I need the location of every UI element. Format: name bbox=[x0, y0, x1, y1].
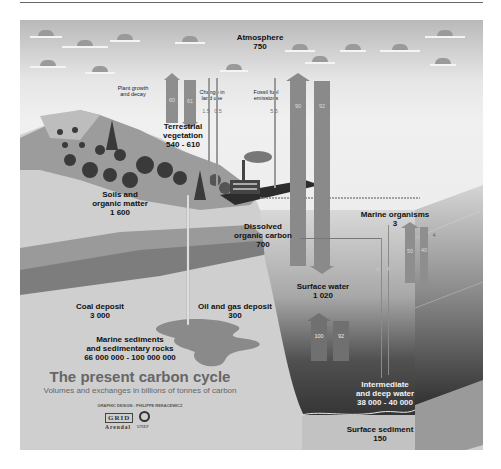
marine-sediments-label: Marine sediments and sedimentary rocks 6… bbox=[70, 335, 190, 363]
arrowhead-up-icon bbox=[164, 73, 180, 80]
land-use-label: Change in land use bbox=[192, 89, 232, 102]
coal-deposit-label: Coal deposit 3 000 bbox=[60, 302, 140, 320]
grid-logo: GRID bbox=[105, 413, 133, 423]
surface-deep-up-arrow: 100 bbox=[311, 321, 327, 361]
surface-deep-down-arrow: 92 bbox=[333, 321, 349, 361]
doc-flow-arrow-a bbox=[381, 238, 382, 378]
arrowhead-down-icon bbox=[310, 266, 334, 274]
marine-organisms-label: Marine organisms 3 bbox=[350, 210, 440, 228]
arrowhead-up-icon bbox=[286, 73, 310, 81]
atmosphere-label: Atmosphere 750 bbox=[230, 33, 290, 51]
doc-flow-arrow-b bbox=[388, 225, 389, 375]
soils-label: Soils and organic matter 1 600 bbox=[80, 190, 160, 218]
carbon-cycle-diagram: Atmosphere 750 Plant growth and decay 60… bbox=[20, 20, 483, 450]
plant-growth-up-arrow: 60 bbox=[166, 79, 178, 123]
top-rule bbox=[20, 2, 483, 3]
dissolved-organic-carbon-label: Dissolved organic carbon 700 bbox=[228, 222, 298, 250]
oil-gas-deposit-label: Oil and gas deposit 300 bbox=[185, 302, 285, 320]
diagram-subtitle: Volumes and exchanges in billions of ton… bbox=[20, 386, 260, 395]
surface-water-label: Surface water 1 020 bbox=[288, 282, 358, 300]
diagram-title: The present carbon cycle bbox=[40, 368, 240, 385]
deep-water-label: Intermediate and deep water 38 000 - 40 … bbox=[345, 380, 425, 408]
arendal-logo: Arendal bbox=[105, 424, 131, 430]
terrestrial-vegetation-label: Terrestrial vegetation 540 - 610 bbox=[153, 122, 213, 150]
fossil-fuel-value: 5.5 bbox=[266, 108, 282, 114]
fossil-fuel-label: Fossil fuel emissions bbox=[246, 89, 286, 102]
arrowhead-down-icon bbox=[416, 282, 432, 288]
fossil-fuel-arrow bbox=[274, 78, 276, 188]
land-use-value-a: 1.5 bbox=[200, 108, 212, 114]
land-use-value-b: 0.5 bbox=[212, 108, 224, 114]
plant-growth-label: Plant growth and decay bbox=[108, 85, 158, 98]
unep-logo-text: UNEP bbox=[137, 424, 149, 429]
marine-bio-up-arrow: 50 bbox=[405, 228, 415, 283]
unep-logo-icon bbox=[139, 411, 150, 422]
arrowhead-up-icon bbox=[307, 313, 331, 321]
marine-bio-small-value: 4 bbox=[430, 232, 438, 238]
arrowhead-up-icon bbox=[401, 222, 419, 228]
marine-bio-down-arrow: 40 bbox=[420, 227, 428, 282]
surface-sediment-label: Surface sediment 150 bbox=[340, 425, 420, 443]
land-use-arrow-b bbox=[216, 78, 218, 186]
design-credit: GRAPHIC DESIGN : PHILIPPE REKACEWICZ bbox=[80, 404, 200, 409]
